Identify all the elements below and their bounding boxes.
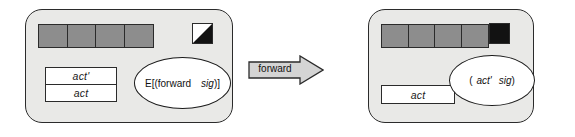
memory-cell [408, 24, 436, 48]
ellipse-word: act' [476, 75, 491, 86]
activity-box-act-after: act [381, 85, 455, 104]
ellipse-suffix: )] [214, 78, 220, 89]
memory-cell [67, 24, 97, 48]
memory-cell [95, 24, 125, 48]
memory-cell [434, 24, 462, 48]
transition-arrow-label: forward [252, 63, 298, 74]
activity-box-act-prime: act' [45, 67, 117, 85]
memory-cell-strip-before [38, 24, 154, 48]
message-ellipse-before: E[(forwardsig)] [134, 57, 231, 109]
memory-cell-strip-after [381, 24, 489, 48]
ellipse-suffix: ) [512, 75, 515, 86]
message-ellipse-after: (act'sig) [449, 55, 535, 106]
ellipse-prefix: E[( [145, 78, 158, 89]
solid-black-square-icon [489, 23, 510, 44]
memory-cell [381, 24, 409, 48]
ellipse-word: forward [158, 78, 191, 89]
memory-cell [124, 24, 154, 48]
ellipse-italic-word: sig [499, 75, 512, 86]
memory-cell [461, 24, 489, 48]
memory-cell [38, 24, 68, 48]
ellipse-prefix: ( [469, 75, 472, 86]
state-transition-diagram: act' act E[(forwardsig)] forward act (ac… [0, 0, 575, 137]
half-filled-square-glyph [193, 24, 212, 43]
half-filled-square-icon [192, 23, 213, 44]
activity-box-act: act [45, 84, 117, 102]
ellipse-italic-word: sig [201, 78, 214, 89]
